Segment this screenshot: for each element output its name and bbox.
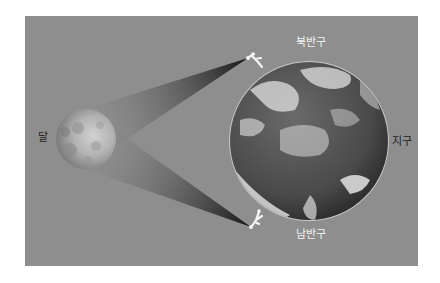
south-hemisphere-label: 남반구 [296,229,326,241]
earth-label: 지구 [392,136,412,148]
earth [229,61,389,221]
parallax-diagram [0,0,440,283]
north-hemisphere-label: 북반구 [296,37,326,49]
observer-north [246,52,262,67]
moon [56,109,116,169]
observer-south [249,209,262,229]
moon-label: 달 [38,132,48,144]
